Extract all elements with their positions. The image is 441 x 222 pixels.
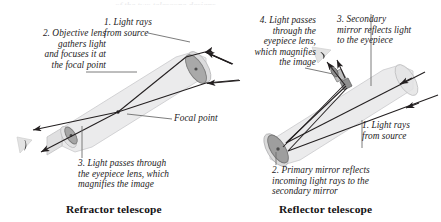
refractor-image-symbol bbox=[17, 137, 32, 153]
label-reflector-secondary-mirror: 3. Secondary mirror reflects light to th… bbox=[337, 14, 439, 46]
label-refractor-objective-lens: 2. Objective lens gathers light and focu… bbox=[2, 28, 106, 70]
label-refractor-eyepiece: 3. Light passes through the eyepiece len… bbox=[78, 158, 210, 190]
label-reflector-eyepiece: 4. Light passes through the eyepiece len… bbox=[218, 15, 316, 68]
label-reflector-light-rays: 1. Light rays from source bbox=[362, 120, 440, 141]
label-refractor-light-rays: 1. Light rays from source bbox=[104, 17, 188, 38]
telescope-diagram-figure: of the two telescope designs bbox=[0, 0, 441, 222]
caption-reflector-telescope: Reflector telescope bbox=[279, 203, 372, 215]
caption-refractor-telescope: Refractor telescope bbox=[66, 203, 162, 215]
label-refractor-focal-point: Focal point bbox=[174, 113, 248, 124]
label-reflector-primary-mirror: 2. Primary mirror reflects incoming ligh… bbox=[272, 165, 440, 197]
